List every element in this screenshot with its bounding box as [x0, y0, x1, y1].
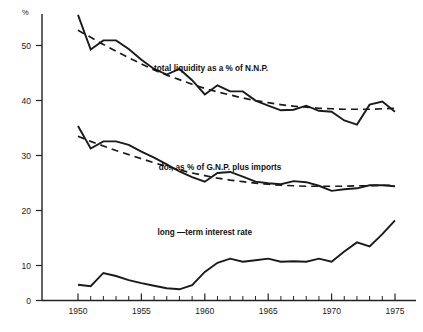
x-tick-label-1970: 1970: [322, 306, 341, 316]
y-tick-label-40: 40: [22, 96, 32, 106]
x-tick-label-1975: 1975: [386, 306, 405, 316]
x-tick-label-1950: 1950: [69, 306, 88, 316]
annotation-group: total liquidity as a % of N.N.P.do., as …: [154, 64, 282, 237]
x-tick-label-1955: 1955: [132, 306, 151, 316]
x-axis-ticks: [78, 294, 395, 301]
series-path-2: [78, 126, 395, 191]
y-tick-label-10: 10: [22, 261, 32, 271]
series-annotation-1: do., as % of G.N.P. plus imports: [159, 163, 282, 172]
series-annotation-0: total liquidity as a % of N.N.P.: [154, 64, 268, 73]
line-chart: % 50 40 30 20 10 0 195019551960196519701…: [0, 0, 423, 332]
chart-container: % 50 40 30 20 10 0 195019551960196519701…: [0, 0, 423, 332]
y-axis-ticks: [36, 46, 42, 301]
y-axis-unit-label: %: [22, 8, 29, 17]
x-tick-label-1960: 1960: [195, 306, 214, 316]
y-axis-tick-labels: 50 40 30 20 10 0: [22, 41, 32, 306]
y-tick-label-30: 30: [22, 151, 32, 161]
x-tick-label-1965: 1965: [259, 306, 278, 316]
y-tick-label-20: 20: [22, 206, 32, 216]
series-annotation-2: long —term interest rate: [157, 228, 252, 237]
y-tick-label-0: 0: [26, 296, 31, 306]
y-tick-label-50: 50: [22, 41, 32, 51]
x-axis-tick-labels: 195019551960196519701975: [69, 306, 405, 316]
series-group: [78, 15, 395, 289]
